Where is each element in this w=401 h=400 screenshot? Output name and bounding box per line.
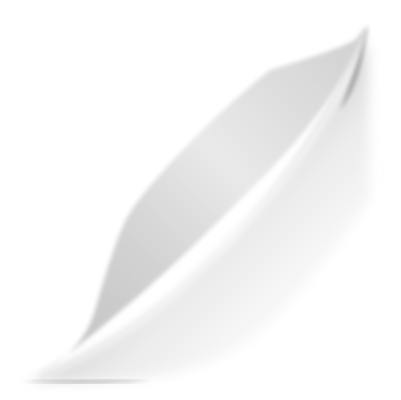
- page-curl-graphic: [0, 0, 401, 400]
- page-curl-illustration: [0, 0, 401, 400]
